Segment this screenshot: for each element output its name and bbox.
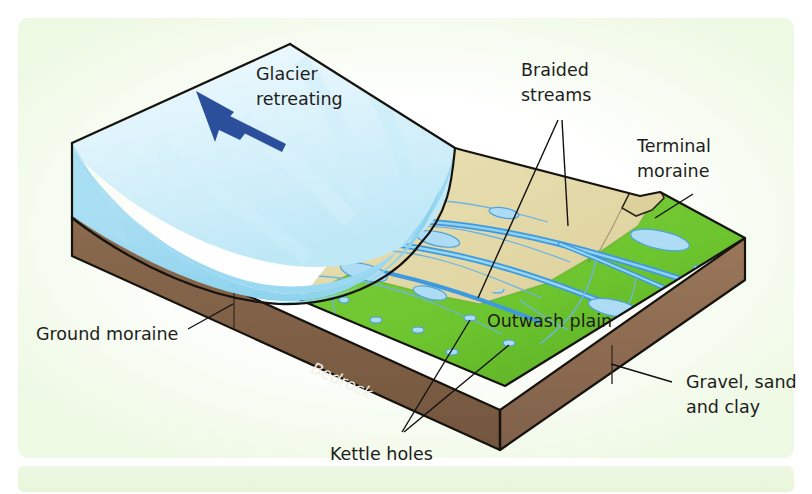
kettle-hole-small-6 [370, 317, 382, 323]
label-gravel-sand-clay-line1: Gravel, sand [686, 372, 797, 392]
kettle-hole-small-4 [412, 327, 424, 333]
label-glacier-retreating-line2: retreating [256, 89, 343, 109]
label-braided-streams-line2: streams [521, 85, 591, 105]
block-diagram-svg: Glacier retreating Braided streams Termi… [0, 0, 812, 494]
label-terminal-moraine-line2: moraine [637, 161, 709, 181]
label-ground-moraine: Ground moraine [36, 324, 178, 344]
label-terminal-moraine-line1: Terminal [636, 136, 711, 156]
label-gravel-sand-clay-line2: and clay [686, 397, 760, 417]
label-braided-streams-line1: Braided [521, 60, 589, 80]
figure-root: Glacier retreating Braided streams Termi… [0, 0, 812, 494]
label-outwash-plain: Outwash plain [487, 311, 612, 331]
label-glacier-retreating-line1: Glacier [256, 64, 318, 84]
leader-gravel-sand-clay [611, 364, 672, 382]
kettle-hole-small-7 [339, 297, 349, 303]
label-kettle-holes: Kettle holes [330, 444, 433, 464]
